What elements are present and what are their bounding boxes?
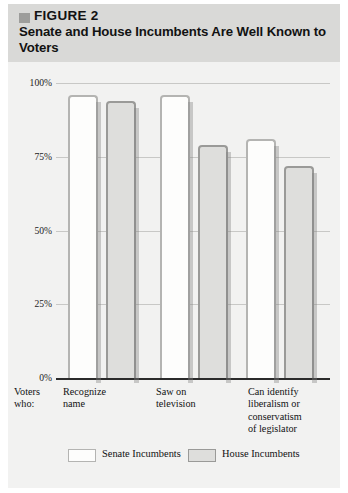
x-axis-prefix-label: Voterswho: (14, 386, 40, 411)
category-label-2: Can identifyliberalism orconservatismof … (248, 386, 302, 436)
legend-swatch-senate (68, 449, 96, 462)
category-label-line: name (63, 398, 106, 410)
bar-senate-1 (160, 95, 190, 378)
legend-swatch-house (188, 449, 216, 462)
bar-house-1 (198, 145, 228, 378)
gray-square-icon (19, 13, 30, 23)
category-label-line: conservatism (248, 411, 302, 423)
figure-header-band: FIGURE 2 Senate and House Incumbents Are… (8, 4, 340, 62)
category-label-line: liberalism or (248, 398, 302, 410)
category-label-line: Can identify (248, 386, 302, 398)
category-label-line: Saw on (156, 386, 196, 398)
category-label-1: Saw ontelevision (156, 386, 196, 411)
figure-panel: FIGURE 2 Senate and House Incumbents Are… (8, 4, 340, 488)
y-tick-75%: 75% (12, 151, 52, 162)
legend-label-senate: Senate Incumbents (102, 448, 181, 459)
y-tick-100%: 100% (12, 77, 52, 88)
figure-number-label: FIGURE 2 (34, 8, 99, 23)
category-label-line: television (156, 398, 196, 410)
bar-house-0 (106, 101, 136, 378)
bar-shadow (134, 108, 139, 383)
bar-senate-0 (68, 95, 98, 378)
x-prefix-line: who: (14, 398, 40, 410)
x-prefix-line: Voters (14, 386, 40, 398)
category-label-line: of legislator (248, 423, 302, 435)
bar-shadow (226, 152, 231, 383)
category-label-0: Recognizename (63, 386, 106, 411)
chart-legend: Senate IncumbentsHouse Incumbents (8, 448, 340, 472)
legend-label-house: House Incumbents (222, 448, 300, 459)
chart-plot-area: 0%25%50%75%100% Voterswho: Recognizename… (8, 62, 340, 488)
bar-house-2 (284, 166, 314, 378)
y-tick-50%: 50% (12, 225, 52, 236)
bar-shadow (312, 173, 317, 383)
bar-shadow (188, 102, 193, 383)
bar-shadow (96, 102, 101, 383)
bar-shadow (274, 146, 279, 383)
category-label-line: Recognize (63, 386, 106, 398)
figure-title: Senate and House Incumbents Are Well Kno… (19, 24, 335, 56)
bar-senate-2 (246, 139, 276, 378)
y-tick-25%: 25% (12, 298, 52, 309)
